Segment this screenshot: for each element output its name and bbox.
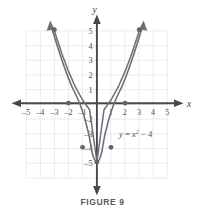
data-point	[137, 27, 142, 32]
axis-lines	[12, 15, 184, 196]
x-tick-label: –2	[63, 108, 72, 117]
x-axis-arrow-left	[12, 99, 22, 107]
data-point	[80, 145, 85, 150]
equation-equals: =	[123, 129, 132, 139]
data-point	[123, 101, 128, 106]
x-tick-label: 2	[123, 108, 127, 117]
x-tick-label: –3	[49, 108, 58, 117]
y-axis-letter: y	[91, 5, 97, 15]
y-tick-label: 1	[88, 86, 92, 95]
figure-caption: FIGURE 9	[0, 197, 205, 207]
x-tick-label: 3	[137, 108, 141, 117]
x-tick-label: 4	[151, 108, 155, 117]
x-tick-label: –4	[35, 108, 44, 117]
x-tick-labels: –5 –4 –3 –2 –1 1 2 3 4 5	[21, 108, 169, 117]
data-point	[66, 101, 71, 106]
y-axis-arrow-down	[93, 186, 101, 196]
y-axis-arrow-up	[93, 15, 101, 25]
data-point	[52, 27, 57, 32]
data-point	[95, 160, 100, 165]
y-tick-label: –5	[83, 159, 92, 168]
x-axis-letter: x	[186, 99, 192, 109]
figure-container: y x –5 –4 –3 –2 –1 1 2 3 4 5 5 4 3 2 1 –…	[0, 0, 205, 216]
y-tick-label: 5	[88, 27, 92, 36]
equation-rest: − 4	[139, 129, 153, 139]
x-axis-arrow-right	[174, 99, 184, 107]
x-tick-label: 5	[165, 108, 169, 117]
y-tick-label: 4	[88, 42, 92, 51]
y-tick-label: 3	[88, 56, 92, 65]
x-tick-label: –5	[21, 108, 30, 117]
data-point	[109, 145, 114, 150]
graph-canvas: y x –5 –4 –3 –2 –1 1 2 3 4 5 5 4 3 2 1 –…	[0, 0, 205, 216]
equation-annotation: y = x2 − 4	[118, 128, 153, 139]
y-tick-label: 2	[88, 71, 92, 80]
